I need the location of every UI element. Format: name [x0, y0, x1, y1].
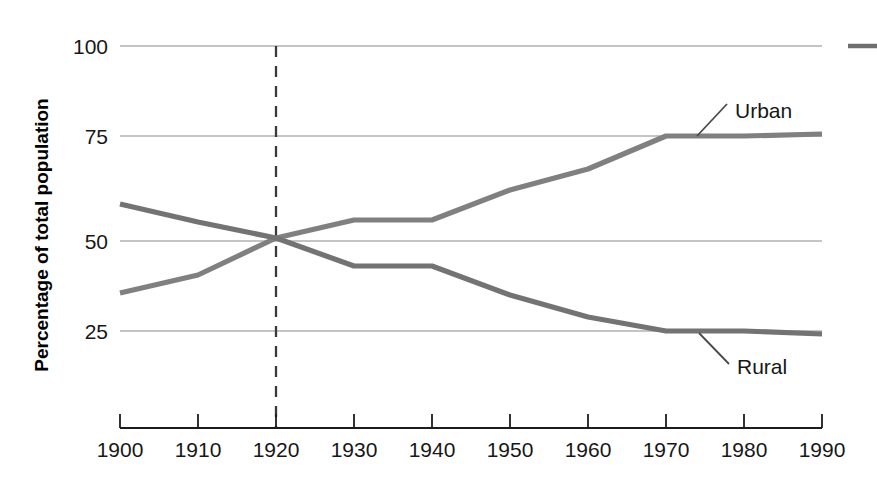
x-tick-label-1920: 1920	[253, 438, 300, 461]
x-tick-label-1960: 1960	[565, 438, 612, 461]
y-tick-label-75: 75	[85, 125, 108, 148]
x-tick-label-1970: 1970	[643, 438, 690, 461]
y-tick-label-100: 100	[73, 35, 108, 58]
x-tick-label-1910: 1910	[175, 438, 222, 461]
chart-background	[0, 0, 877, 490]
x-tick-label-1940: 1940	[409, 438, 456, 461]
x-tick-label-1930: 1930	[331, 438, 378, 461]
y-tick-label-50: 50	[85, 230, 108, 253]
x-tick-label-1980: 1980	[721, 438, 768, 461]
rural-annotation-label: Rural	[737, 355, 787, 378]
line-chart: 100 75 50 25 Percentage of total populat…	[0, 0, 877, 490]
y-tick-label-25: 25	[85, 320, 108, 343]
chart-container: 100 75 50 25 Percentage of total populat…	[0, 0, 877, 490]
x-tick-label-1950: 1950	[487, 438, 534, 461]
x-tick-label-1990: 1990	[799, 438, 846, 461]
x-tick-label-1900: 1900	[97, 438, 144, 461]
urban-annotation-label: Urban	[735, 99, 792, 122]
y-axis-title: Percentage of total population	[31, 98, 52, 371]
